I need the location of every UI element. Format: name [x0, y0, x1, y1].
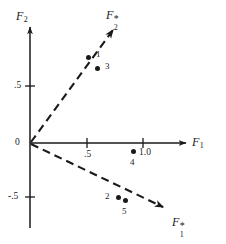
reference-axis-f2-star-title: F * 2	[106, 9, 119, 21]
y-tick-label-half: .5	[14, 81, 21, 91]
f1-star-subscript: 1	[180, 231, 184, 239]
data-point-4-label: 4	[130, 158, 135, 167]
y-tick-label-neg-half: -.5	[8, 192, 18, 202]
data-point-3-label: 3	[105, 62, 110, 71]
f1-star-letter: F	[172, 215, 179, 229]
reference-axis-f1-star-title: F * 1	[172, 216, 185, 228]
data-point-2-label: 2	[105, 192, 110, 201]
x-axis-title-letter: F	[192, 135, 199, 149]
y-axis-title-letter: F	[16, 9, 23, 23]
data-point-5	[123, 198, 128, 203]
data-point-1-label: 1	[96, 50, 101, 59]
data-point-2	[116, 195, 121, 200]
y-axis-title: F2	[16, 10, 28, 24]
x-tick-label-half: .5	[84, 150, 91, 160]
y-tick-label-zero: 0	[15, 138, 20, 148]
reference-axis-f2-star-line	[31, 30, 113, 142]
scatter-plot-canvas	[0, 0, 226, 244]
data-point-3	[95, 66, 100, 71]
data-point-4	[131, 149, 136, 154]
x-tick-label-one: 1.0	[139, 148, 151, 158]
data-point-5-label: 5	[122, 207, 127, 216]
y-axis-title-subscript: 2	[24, 15, 28, 24]
x-axis-title: F1	[192, 136, 204, 150]
data-point-1	[86, 55, 91, 60]
f2-star-subscript: 2	[114, 24, 118, 32]
f2-star-letter: F	[106, 8, 113, 22]
x-axis-title-subscript: 1	[200, 141, 204, 150]
